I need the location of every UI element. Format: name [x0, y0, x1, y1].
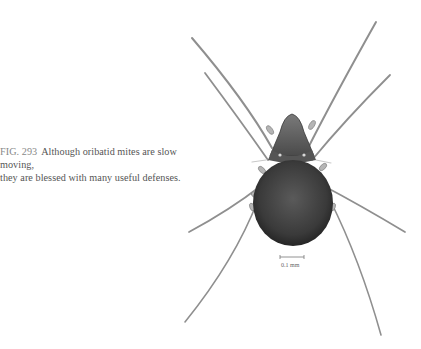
mite-head	[270, 114, 314, 156]
mite-illustration	[0, 0, 421, 349]
scale-bar	[280, 255, 304, 259]
scale-bar-label: 0.1 mm	[281, 262, 299, 268]
mite-eye-spot	[302, 153, 305, 156]
mite-eye-spot	[278, 153, 281, 156]
mite-body	[253, 160, 333, 246]
